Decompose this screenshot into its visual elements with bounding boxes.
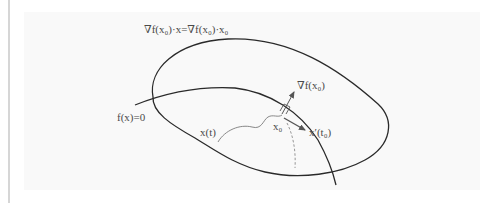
point-label: x₀	[273, 121, 282, 132]
tangent-plane-label: ∇f(x₀)·x=∇f(x₀)·x₀	[144, 24, 228, 35]
tangent-plane-loop	[152, 39, 388, 176]
gradient-label: ∇f(x₀)	[297, 80, 325, 91]
surface-curve	[135, 88, 336, 185]
surface-label: f(x)=0	[117, 112, 145, 123]
dashed-curve	[287, 123, 295, 168]
figure-svg	[0, 0, 500, 203]
curve-label: x(t)	[200, 127, 216, 138]
tangent-vector-label: x′(t₀)	[309, 127, 331, 138]
